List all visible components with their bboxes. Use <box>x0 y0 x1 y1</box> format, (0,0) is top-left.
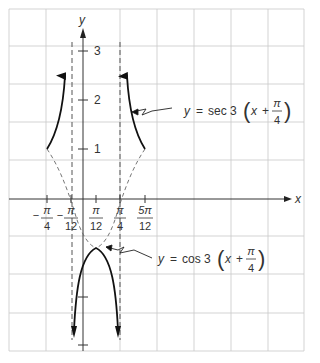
svg-text:cos 3: cos 3 <box>182 252 211 266</box>
svg-text:π: π <box>247 245 255 257</box>
svg-text:4: 4 <box>44 220 50 232</box>
svg-text:x: x <box>224 252 232 266</box>
svg-text:12: 12 <box>65 220 77 232</box>
sec-curve <box>47 76 145 149</box>
leaders <box>106 108 172 258</box>
x-tick-labels: − π 4 − π 12 π 12 π 4 5π 12 <box>33 204 153 232</box>
x-axis-label: x <box>294 192 302 206</box>
svg-text:−: − <box>33 209 39 221</box>
asymptotes <box>72 42 120 340</box>
svg-text:5π: 5π <box>138 204 152 216</box>
svg-text:π: π <box>116 204 124 216</box>
svg-text:4: 4 <box>117 220 123 232</box>
svg-text:): ) <box>284 98 291 123</box>
svg-text:12: 12 <box>139 220 151 232</box>
svg-text:π: π <box>273 97 281 109</box>
svg-text:x: x <box>250 104 258 118</box>
axes <box>9 28 292 351</box>
svg-text:): ) <box>258 246 265 271</box>
cos-curve <box>71 248 121 338</box>
y-axis-label: y <box>78 13 86 27</box>
cos-equation-label: y = cos 3 ( x + π 4 ) <box>157 245 265 274</box>
svg-text:12: 12 <box>90 220 102 232</box>
graph: y x 3 2 1 − π 4 − π 12 π 12 π 4 5π 12 y … <box>0 0 320 363</box>
grid <box>9 9 304 351</box>
svg-text:π: π <box>67 204 75 216</box>
svg-text:−: − <box>57 209 63 221</box>
svg-text:y: y <box>157 252 165 266</box>
svg-text:+: + <box>262 104 269 118</box>
y-tick-3: 3 <box>94 44 101 58</box>
svg-text:π: π <box>43 204 51 216</box>
svg-text:4: 4 <box>274 114 280 126</box>
y-tick-1: 1 <box>94 142 101 156</box>
svg-text:(: ( <box>243 98 251 123</box>
svg-text:=: = <box>196 104 203 118</box>
svg-text:(: ( <box>217 246 225 271</box>
svg-text:π: π <box>92 204 100 216</box>
svg-text:4: 4 <box>248 262 254 274</box>
y-tick-2: 2 <box>94 93 101 107</box>
svg-text:+: + <box>236 252 243 266</box>
svg-text:sec 3: sec 3 <box>208 104 237 118</box>
svg-text:y: y <box>183 104 191 118</box>
svg-text:=: = <box>170 252 177 266</box>
